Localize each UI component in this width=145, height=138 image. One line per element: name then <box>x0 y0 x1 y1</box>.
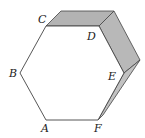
label-c: C <box>38 13 47 26</box>
hexagonal-prism-diagram: C D B E A F <box>0 0 145 138</box>
label-b: B <box>8 67 17 80</box>
label-f: F <box>93 122 102 135</box>
label-a: A <box>40 122 49 135</box>
label-e: E <box>107 70 116 83</box>
label-d: D <box>86 30 96 43</box>
